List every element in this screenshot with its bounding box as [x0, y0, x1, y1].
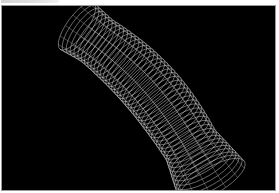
cropped-caption: [1, 0, 59, 3]
wireframe-mesh: [2, 6, 276, 191]
render-canvas: [1, 5, 276, 191]
